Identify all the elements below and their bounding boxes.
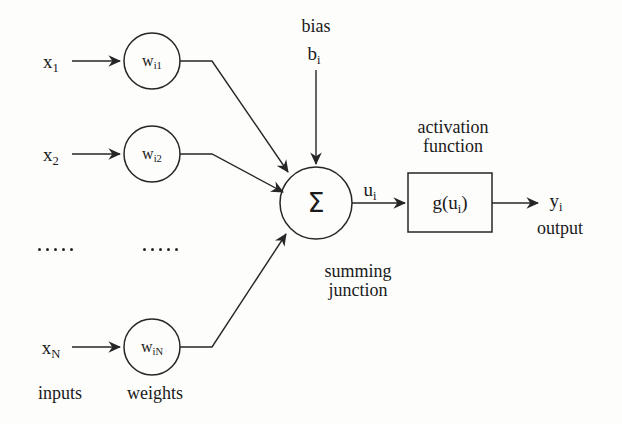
input-label-x2: x2 bbox=[43, 145, 59, 167]
sigma-symbol: Σ bbox=[307, 189, 324, 216]
weight-label-wi1: wi1 bbox=[142, 53, 162, 72]
weights-group-label: weights bbox=[127, 384, 183, 402]
activation-caption-line2: function bbox=[423, 137, 483, 155]
input-label-xN: xN bbox=[42, 338, 61, 360]
weight-label-wi2: wi2 bbox=[142, 146, 162, 165]
activation-box-label: g(ui) bbox=[432, 193, 467, 215]
output-symbol: yi bbox=[550, 191, 563, 213]
summing-junction-caption-line1: summing bbox=[324, 262, 391, 280]
neuron-diagram: x1 x2 xN wi1 wi2 wiN bias bi Σ summing j… bbox=[0, 0, 622, 424]
summing-junction-caption-line2: junction bbox=[329, 281, 388, 299]
link-wiN-to-sum bbox=[180, 234, 286, 347]
inputs-group-label: inputs bbox=[38, 384, 82, 402]
net-input-label: ui bbox=[364, 180, 377, 202]
bias-caption: bias bbox=[302, 17, 331, 35]
bias-symbol: bi bbox=[308, 44, 321, 66]
link-wi1-to-sum bbox=[180, 61, 288, 172]
activation-caption-line1: activation bbox=[418, 118, 489, 136]
weight-label-wiN: wiN bbox=[141, 339, 163, 358]
weights-ellipsis bbox=[143, 248, 178, 251]
inputs-ellipsis bbox=[38, 248, 73, 251]
input-label-x1: x1 bbox=[43, 52, 59, 74]
output-caption: output bbox=[537, 219, 583, 237]
link-wi2-to-sum bbox=[180, 154, 283, 192]
